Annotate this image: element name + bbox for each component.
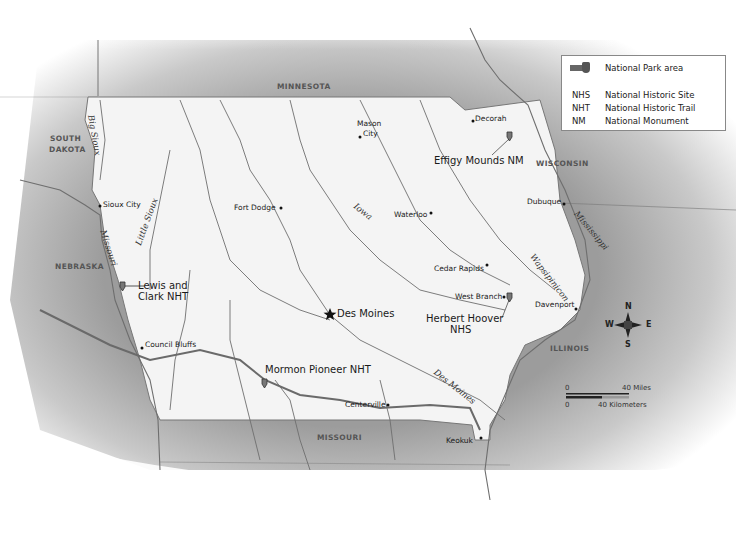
legend-desc: National Monument <box>605 116 689 126</box>
city-label: Dubuque <box>527 197 561 206</box>
legend-park-label: National Park area <box>605 63 683 73</box>
city-label: Keokuk <box>446 436 473 445</box>
city-label: City <box>363 129 378 138</box>
state-label-nebraska: NEBRASKA <box>55 262 104 272</box>
scale-zero-km: 0 <box>565 401 569 409</box>
legend-abbr: NHT <box>572 103 590 113</box>
compass-w: W <box>605 320 614 329</box>
city-label: Fort Dodge <box>234 203 276 212</box>
city-label: Davenport <box>535 300 575 309</box>
city-label: Decorah <box>475 114 507 123</box>
capital-label: Des Moines <box>337 308 394 319</box>
city-label: West Branch <box>455 292 502 301</box>
legend-desc: National Historic Trail <box>605 103 695 113</box>
map-legend: National Park area NHS National Historic… <box>561 55 726 131</box>
state-label-wisconsin: WISCONSIN <box>536 159 589 169</box>
state-label-missouri: MISSOURI <box>317 433 362 443</box>
park-label-lewis-clark: Lewis and <box>138 280 188 291</box>
legend-abbr: NM <box>572 116 586 126</box>
park-label-effigy-mounds: Effigy Mounds NM <box>434 155 524 166</box>
state-label-south-dakota: SOUTH <box>50 134 81 144</box>
legend-abbr: NHS <box>572 90 590 100</box>
state-label-south-dakota: DAKOTA <box>49 145 86 155</box>
park-label-herbert-hoover: NHS <box>450 324 471 335</box>
park-shield-icon <box>582 62 590 73</box>
state-label-illinois: ILLINOIS <box>550 344 589 354</box>
state-label-minnesota: MINNESOTA <box>277 82 331 92</box>
scale-zero-miles: 0 <box>565 384 569 392</box>
park-label-lewis-clark: Clark NHT <box>138 291 188 302</box>
legend-desc: National Historic Site <box>605 90 694 100</box>
park-label-mormon-pioneer: Mormon Pioneer NHT <box>265 364 371 375</box>
scale-km-label: 40 Kilometers <box>598 401 647 409</box>
compass-n: N <box>625 302 632 311</box>
compass-s: S <box>625 340 631 349</box>
park-label-herbert-hoover: Herbert Hoover <box>426 313 503 324</box>
city-label: Council Bluffs <box>145 340 196 349</box>
city-label: Waterloo <box>394 210 427 219</box>
city-label: Centerville <box>345 400 386 409</box>
scale-miles-label: 40 Miles <box>622 384 651 392</box>
city-label: Sioux City <box>103 200 141 209</box>
compass-e: E <box>646 320 651 329</box>
city-label: Cedar Rapids <box>434 264 484 273</box>
city-label: Mason <box>357 119 381 128</box>
